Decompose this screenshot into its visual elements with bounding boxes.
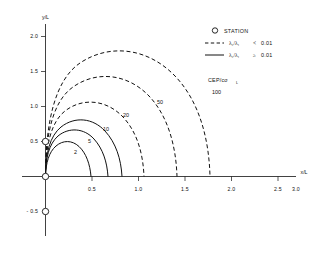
legend-station-icon — [212, 28, 217, 33]
contour-curve-10 — [46, 120, 123, 177]
contour-curve-50 — [46, 76, 178, 176]
contour-curve-labels: 2 5 10 20 50 100 — [74, 89, 221, 155]
legend-relation-solid: ≥ — [253, 52, 256, 58]
legend-math-dashed: λ₂/λ₁ — [229, 40, 240, 46]
cep-annotation: CEP/cσ L — [208, 77, 238, 85]
legend-math-solid: λ₂/λ₁ — [229, 52, 240, 58]
contour-curve-2 — [46, 142, 92, 177]
legend-value-solid: 0.01 — [261, 52, 273, 58]
y-tick-label-2: 1.5 — [30, 68, 38, 74]
y-axis-ticks: 0.5 1.0 1.5 2.0 - 0.5 — [27, 33, 46, 214]
curve-label-10: 10 — [103, 126, 109, 132]
curve-label-50: 50 — [157, 99, 163, 105]
x-tick-label-1: 1.0 — [135, 186, 143, 192]
station-marker-lower — [42, 208, 48, 214]
curve-label-100: 100 — [212, 89, 221, 95]
y-axis-title: y/L — [42, 14, 49, 20]
curve-label-20: 20 — [123, 112, 129, 118]
x-tick-label-0: 0.5 — [88, 186, 96, 192]
x-tick-label-5: 3.0 — [292, 186, 300, 192]
curve-label-5: 5 — [88, 138, 91, 144]
legend: STATION λ₂/λ₁ < 0.01 λ₂/λ₁ ≥ 0.01 — [205, 28, 273, 59]
plot-canvas: 0.5 1.0 1.5 2.0 2.5 3.0 0.5 1.0 1.5 2.0 … — [0, 0, 322, 256]
station-marker-origin — [42, 173, 48, 179]
curve-label-2: 2 — [74, 149, 77, 155]
legend-relation-dashed: < — [253, 40, 256, 46]
y-tick-label-3: 2.0 — [30, 33, 38, 39]
cep-annotation-subscript: L — [236, 81, 238, 85]
x-axis-ticks: 0.5 1.0 1.5 2.0 2.5 3.0 — [88, 177, 300, 193]
cep-contour-figure: 0.5 1.0 1.5 2.0 2.5 3.0 0.5 1.0 1.5 2.0 … — [0, 0, 322, 256]
y-tick-label-1: 1.0 — [30, 103, 38, 109]
legend-label-station: STATION — [224, 28, 248, 34]
x-axis-title: x/L — [301, 169, 308, 175]
y-tick-label-0: 0.5 — [30, 138, 38, 144]
x-tick-label-2: 1.5 — [181, 186, 189, 192]
station-marker-upper — [42, 138, 48, 144]
y-tick-label-negative: - 0.5 — [27, 208, 38, 214]
cep-annotation-text: CEP/cσ — [208, 77, 228, 83]
x-tick-label-3: 2.0 — [228, 186, 236, 192]
x-tick-label-4: 2.5 — [274, 186, 282, 192]
legend-value-dashed: 0.01 — [261, 40, 273, 46]
